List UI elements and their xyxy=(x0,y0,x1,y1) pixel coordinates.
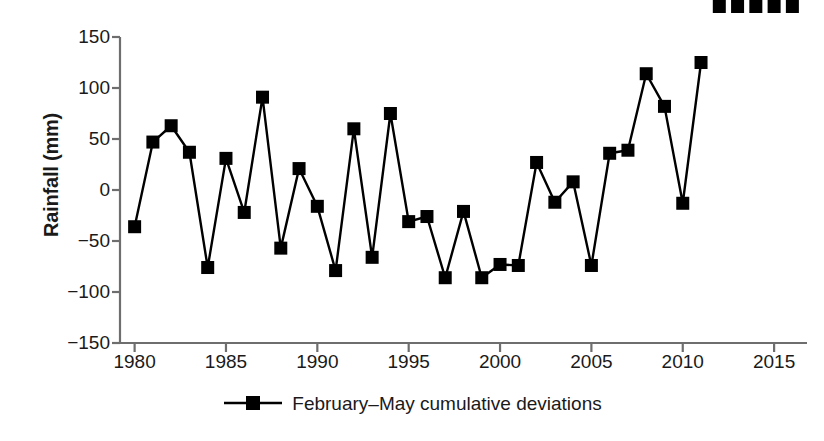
axis-lines xyxy=(120,37,807,343)
x-tick-label: 2005 xyxy=(551,352,631,371)
x-tick-label: 2000 xyxy=(460,352,540,371)
series-markers-february-may xyxy=(128,0,799,284)
axis-tick-marks xyxy=(112,37,774,352)
x-tick-label: 2010 xyxy=(643,352,723,371)
x-tick-label: 1990 xyxy=(277,352,357,371)
x-axis-tick-labels: 19801985199019952000200520102015 xyxy=(0,352,824,378)
series-line-february-may xyxy=(135,63,701,278)
x-tick-label: 1985 xyxy=(186,352,266,371)
x-tick-label: 2015 xyxy=(734,352,814,371)
legend-marker-icon xyxy=(222,393,284,413)
rainfall-line-chart-figure: Rainfall (mm) 150100500−50−100−150 19801… xyxy=(0,0,824,441)
x-tick-label: 1995 xyxy=(369,352,449,371)
x-tick-label: 1980 xyxy=(95,352,175,371)
legend-label: February–May cumulative deviations xyxy=(292,394,601,413)
chart-legend: February–May cumulative deviations xyxy=(0,388,824,418)
